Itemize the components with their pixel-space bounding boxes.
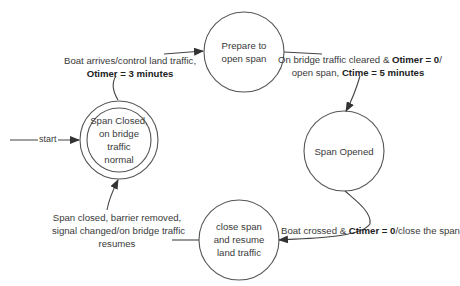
label-text: Boat crossed & bbox=[281, 225, 349, 236]
label-bold: Otimer = 0 bbox=[392, 54, 439, 65]
label-line: traffic bbox=[90, 140, 148, 153]
transition-label-boat-arrives: Boat arrives/control land traffic, Otime… bbox=[64, 54, 196, 80]
label-line: normal bbox=[90, 153, 148, 166]
state-label-close-span: close span and resume land traffic bbox=[199, 217, 279, 261]
label-bold: Otimer = 3 minutes bbox=[87, 68, 174, 79]
edge-close-to-closed-b bbox=[107, 180, 118, 210]
label-line: land traffic bbox=[214, 246, 265, 259]
label-line: resumes bbox=[52, 237, 182, 250]
label-text: On bridge traffic cleared & bbox=[278, 54, 392, 65]
label-line: on bridge bbox=[90, 127, 148, 140]
label-line: and resume bbox=[214, 233, 265, 246]
transition-label-traffic-cleared: On bridge traffic cleared & Otimer = 0/ … bbox=[278, 53, 438, 79]
label-line: Span Opened bbox=[314, 145, 373, 158]
start-label: start bbox=[38, 133, 58, 146]
label-line: Boat arrives/control land traffic, bbox=[64, 54, 196, 67]
label-text: open span, bbox=[292, 67, 342, 78]
label-text: /close the span bbox=[395, 225, 460, 236]
label-text: / bbox=[439, 54, 442, 65]
label-bold: Ctime = 5 minutes bbox=[342, 67, 424, 78]
label-line: open span bbox=[222, 52, 267, 65]
transition-label-boat-crossed: Boat crossed & Ctimer = 0/close the span bbox=[281, 224, 451, 237]
transition-label-span-closed: Span closed, barrier removed, signal cha… bbox=[52, 211, 182, 250]
label-line: Prepare to bbox=[222, 39, 267, 52]
edge-prepare-to-opened-b bbox=[346, 76, 360, 111]
state-label-span-closed: Span Closed, on bridge traffic normal bbox=[87, 110, 151, 170]
state-label-prepare: Prepare to open span bbox=[204, 32, 284, 72]
label-line: Span closed, barrier removed, bbox=[52, 211, 182, 224]
label-line: close span bbox=[214, 220, 265, 233]
state-label-span-opened: Span Opened bbox=[304, 141, 384, 161]
label-line: signal changed/on bridge traffic bbox=[52, 224, 182, 237]
label-bold: Ctimer = 0 bbox=[349, 225, 396, 236]
label-line: Span Closed, bbox=[90, 114, 148, 127]
